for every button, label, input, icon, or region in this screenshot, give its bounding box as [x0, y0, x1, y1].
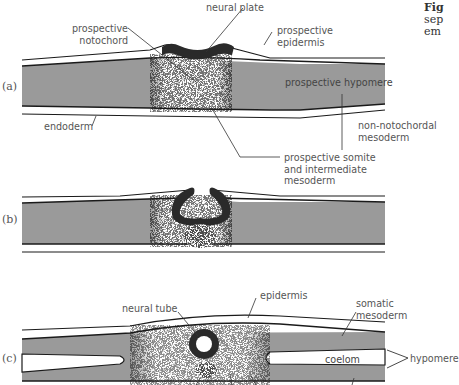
panel-c-tag: (c) — [2, 352, 17, 365]
label-prospective-notochord: prospective notochord — [70, 23, 128, 46]
label-neural-plate: neural plate — [206, 2, 264, 14]
label-non-notochordal-mesoderm: non-notochordal mesoderm — [358, 120, 437, 143]
panel-c-drawing — [22, 298, 408, 385]
panel-a-tag: (a) — [2, 80, 17, 93]
label-prospective-epidermis: prospective epidermis — [277, 25, 333, 48]
label-prospective-notochord-line1: prospective — [72, 23, 128, 34]
label-neural-tube: neural tube — [122, 303, 177, 315]
label-somatic-line1: somatic — [356, 298, 394, 309]
label-somatic-mesoderm: somatic mesoderm — [356, 298, 407, 321]
label-somite-line2: and intermediate — [284, 164, 367, 175]
label-non-notochordal-line1: non-notochordal — [358, 120, 437, 131]
label-non-notochordal-line2: mesoderm — [358, 132, 409, 143]
label-somatic-line2: mesoderm — [356, 310, 407, 321]
label-somite-line1: prospective somite — [284, 152, 376, 163]
label-prospective-somite: prospective somite and intermediate meso… — [284, 152, 376, 187]
label-epidermis: epidermis — [260, 290, 307, 302]
figure-caption: Fig sep em — [424, 2, 444, 38]
label-endoderm: endoderm — [44, 121, 93, 133]
caption-line-3: em — [424, 25, 441, 38]
label-prospective-epidermis-line1: prospective — [277, 25, 333, 36]
label-prospective-epidermis-line2: epidermis — [277, 37, 324, 48]
label-hypomere: hypomere — [410, 353, 459, 365]
label-prospective-hypomere: prospective hypomere — [285, 77, 393, 89]
panel-b-drawing — [22, 188, 385, 252]
panel-b-tag: (b) — [2, 213, 18, 226]
label-prospective-notochord-line2: notochord — [79, 35, 128, 46]
label-coelom: coelom — [325, 354, 360, 366]
label-somite-line3: mesoderm — [284, 175, 335, 186]
